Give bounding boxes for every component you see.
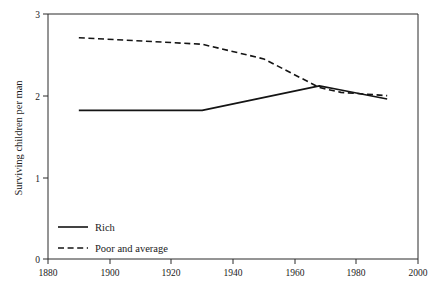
chart-container: 3 2 1 0 1880 1900 1920 1940 1960 1980 20…	[0, 0, 439, 292]
series-path-rich	[79, 86, 387, 111]
series-path-poor-and-average	[79, 38, 387, 96]
x-tick-label-1880: 1880	[39, 268, 58, 278]
x-tick-label-1900: 1900	[101, 268, 120, 278]
x-tick-label-1960: 1960	[286, 268, 305, 278]
y-axis-label: Surviving children per man	[13, 80, 24, 196]
legend: Rich Poor and average	[58, 222, 168, 254]
legend-label-poor-and-average: Poor and average	[95, 243, 168, 254]
series-group	[79, 38, 387, 111]
x-tick-label-1980: 1980	[347, 268, 366, 278]
x-tick-label-1940: 1940	[224, 268, 243, 278]
x-ticks: 1880 1900 1920 1940 1960 1980 2000	[39, 259, 428, 278]
line-chart: 3 2 1 0 1880 1900 1920 1940 1960 1980 20…	[0, 0, 439, 292]
y-tick-label-1: 1	[35, 174, 40, 184]
x-tick-label-1920: 1920	[162, 268, 181, 278]
y-ticks: 3 2 1 0	[35, 10, 48, 265]
x-tick-label-2000: 2000	[409, 268, 428, 278]
y-tick-label-0: 0	[35, 255, 40, 265]
y-tick-label-3: 3	[35, 10, 40, 20]
legend-label-rich: Rich	[95, 222, 116, 233]
y-tick-label-2: 2	[35, 92, 40, 102]
